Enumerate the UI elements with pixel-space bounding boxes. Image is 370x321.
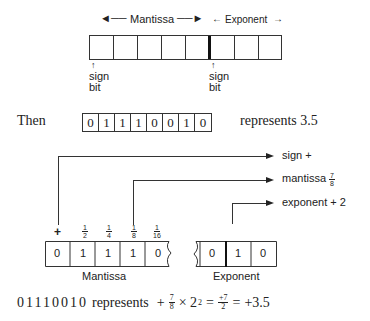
exponent-sign-bit-label: ↑ sign bit (209, 60, 229, 93)
bit-cell: 0 (147, 114, 163, 131)
mantissa-bit: 1 (80, 247, 86, 259)
mantissa-bit: 0 (54, 247, 60, 259)
arrowhead-icon (266, 153, 274, 159)
mantissa-left-arrow-icon: ◄── (100, 12, 126, 24)
register-cell (211, 36, 235, 59)
mantissa-bit: 1 (130, 247, 136, 259)
weight-sign: + (54, 225, 61, 239)
register-cell (186, 36, 211, 59)
sign-connector-vertical (58, 156, 59, 225)
formula-fraction-7-2: +72 (218, 294, 229, 311)
arrowhead-icon (266, 177, 274, 183)
formula-result: +3.5 (244, 295, 269, 311)
formula-plus: + (157, 295, 165, 311)
formula-line: 01110010 represents + 78 × 22 = +72 = +3… (17, 294, 270, 311)
formula-fraction-7-8: 78 (169, 294, 175, 311)
bit-cell: 1 (131, 114, 147, 131)
top-mantissa-label: Mantissa (130, 13, 174, 25)
example-register: 0 1 1 1 0 0 1 0 (82, 113, 212, 132)
callout-exponent: exponent + 2 (282, 196, 346, 208)
bit-cell: 1 (99, 114, 115, 131)
bit-cell: 0 (195, 114, 211, 131)
fraction: 78 (329, 172, 335, 187)
formula-power: 2 (198, 298, 202, 307)
register-cell (90, 36, 114, 59)
top-register (89, 35, 282, 60)
mantissa-connector-vertical (133, 180, 134, 225)
arrowhead-icon (266, 200, 274, 206)
exponent-bit: 1 (235, 247, 241, 259)
bit-cell: 0 (163, 114, 179, 131)
mantissa-bit: 1 (105, 247, 111, 259)
mantissa-sign-bit-label: ↑ sign bit (89, 60, 109, 93)
weight-eighth: 18 (131, 224, 137, 239)
exponent-bit: 0 (260, 247, 266, 259)
register-cell (235, 36, 259, 59)
formula-represents: represents (92, 295, 149, 311)
exponent-connector-horizontal (232, 203, 268, 204)
exponent-bit: 0 (209, 247, 215, 259)
formula-times: × 2 (179, 295, 197, 311)
top-exponent-label: Exponent (225, 14, 267, 25)
bit-cell: 1 (115, 114, 131, 131)
exponent-connector-vertical (232, 203, 233, 224)
weight-quarter: 14 (106, 224, 112, 239)
mantissa-label: Mantissa (82, 270, 126, 282)
register-cell (162, 36, 186, 59)
register-cell (259, 36, 281, 59)
then-label: Then (17, 113, 46, 129)
represents-label: represents 3.5 (240, 113, 318, 129)
exponent-left-arrow-icon: ← (212, 13, 222, 24)
formula-bits: 01110010 (17, 295, 88, 311)
formula-eq2: = (232, 295, 240, 311)
mantissa-bit: 0 (155, 247, 161, 259)
exponent-label: Exponent (213, 270, 259, 282)
register-cell (114, 36, 138, 59)
mantissa-connector-horizontal (133, 180, 268, 181)
callout-mantissa: mantissa 78 (282, 172, 335, 187)
bit-cell: 0 (83, 114, 99, 131)
mantissa-right-arrow-icon: ──► (177, 12, 203, 24)
callout-sign: sign + (282, 149, 312, 161)
exponent-right-arrow-icon: → (273, 13, 283, 24)
weight-sixteenth: 116 (153, 224, 161, 239)
register-cell (138, 36, 162, 59)
sign-connector-horizontal (58, 156, 268, 157)
weight-half: 12 (82, 224, 88, 239)
formula-eq1: = (206, 295, 214, 311)
bit-cell: 1 (179, 114, 195, 131)
